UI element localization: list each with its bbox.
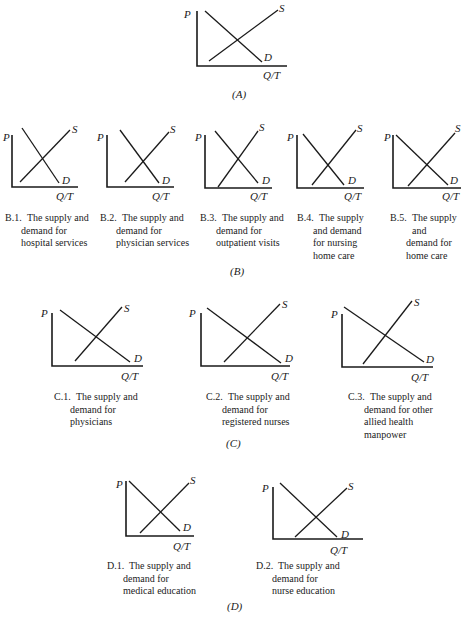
- demand-curve: [215, 131, 258, 183]
- demand-curve: [303, 134, 344, 185]
- quantity-axis-label: Q/T: [344, 190, 361, 202]
- demand-label: D: [450, 174, 458, 186]
- caption-line: nurse education: [256, 585, 340, 598]
- supply-label: S: [259, 121, 265, 133]
- caption-line: medical education: [107, 585, 196, 598]
- demand-curve: [205, 11, 262, 62]
- panel-caption: D.1.The supply anddemand formedical educ…: [107, 560, 196, 598]
- caption-line: demand for: [390, 237, 470, 250]
- price-axis-label: P: [184, 8, 191, 20]
- demand-label: D: [426, 353, 434, 365]
- quantity-axis-label: Q/T: [442, 190, 459, 202]
- caption-number: B.3.: [200, 212, 217, 225]
- caption-line: demand for: [54, 404, 138, 417]
- caption-line: outpatient visits: [200, 237, 284, 250]
- axes: [52, 313, 143, 366]
- panel-C-2: [201, 304, 290, 366]
- caption-number: C.3.: [348, 391, 365, 404]
- supply-label: S: [170, 123, 176, 135]
- caption-line: registered nurses: [206, 416, 290, 429]
- panel-C-1: [52, 307, 143, 366]
- caption-number: C.1.: [54, 391, 71, 404]
- panel-A: [197, 10, 287, 66]
- demand-label: D: [264, 51, 272, 63]
- quantity-axis-label: Q/T: [152, 190, 169, 202]
- panel-caption: C.3.The supply anddemand for otherallied…: [348, 391, 433, 441]
- caption-line: demand for: [5, 225, 89, 238]
- quantity-axis-label: Q/T: [121, 370, 138, 382]
- supply-label: S: [72, 123, 78, 135]
- supply-curve: [408, 133, 455, 186]
- demand-curve: [129, 481, 180, 531]
- price-axis-label: P: [3, 131, 10, 143]
- demand-label: D: [285, 352, 293, 364]
- caption-line: allied health: [348, 416, 433, 429]
- supply-curve: [295, 488, 347, 537]
- quantity-axis-label: Q/T: [330, 544, 347, 556]
- demand-label: D: [183, 521, 191, 533]
- panel-caption: B.2.The supply anddemand forphysician se…: [100, 212, 189, 250]
- supply-label: S: [455, 122, 461, 134]
- price-axis-label: P: [97, 131, 104, 143]
- demand-curve: [207, 308, 281, 363]
- caption-line: hospital services: [5, 237, 89, 250]
- section-label-D: (D): [227, 600, 242, 612]
- price-axis-label: P: [189, 307, 196, 319]
- quantity-axis-label: Q/T: [271, 370, 288, 382]
- panel-caption: D.2.The supply anddemand fornurse educat…: [256, 560, 340, 598]
- supply-curve: [218, 131, 258, 187]
- panel-C-3: [342, 301, 433, 367]
- panel-caption: C.2.The supply anddemand forregistered n…: [206, 391, 290, 429]
- caption-line: manpower: [348, 429, 433, 442]
- caption-line: demand for: [100, 225, 189, 238]
- quantity-axis-label: Q/T: [263, 69, 280, 81]
- caption-line: physicians: [54, 416, 138, 429]
- supply-curve: [224, 304, 280, 362]
- supply-curve: [363, 301, 412, 364]
- axes: [197, 11, 287, 66]
- supply-label: S: [190, 474, 196, 486]
- supply-label: S: [124, 302, 130, 314]
- supply-curve: [75, 307, 122, 361]
- caption-line: demand for other: [348, 404, 433, 417]
- caption-line: home care: [297, 250, 364, 263]
- section-label-B: (B): [230, 265, 244, 277]
- section-label-A: (A): [232, 88, 246, 100]
- caption-number: B.4.: [297, 212, 314, 225]
- supply-label: S: [279, 2, 285, 14]
- quantity-axis-label: Q/T: [250, 190, 267, 202]
- price-axis-label: P: [195, 131, 202, 143]
- demand-label: D: [341, 528, 349, 540]
- demand-curve: [120, 130, 159, 183]
- panel-caption: B.1.The supply anddemand forhospital ser…: [5, 212, 89, 250]
- demand-curve: [344, 307, 424, 362]
- quantity-axis-label: Q/T: [411, 371, 428, 383]
- caption-number: B.2.: [100, 212, 117, 225]
- supply-label: S: [414, 296, 420, 308]
- demand-curve: [280, 483, 337, 537]
- price-axis-label: P: [331, 308, 338, 320]
- demand-label: D: [134, 352, 142, 364]
- caption-line: demand for: [206, 404, 290, 417]
- quantity-axis-label: Q/T: [56, 190, 73, 202]
- price-axis-label: P: [116, 478, 123, 490]
- caption-line: home care: [390, 250, 470, 263]
- caption-number: B.5.: [390, 212, 407, 225]
- demand-label: D: [62, 174, 70, 186]
- demand-curve: [60, 310, 130, 362]
- panel-caption: B.4.The supplyand demandfor nursinghome …: [297, 212, 364, 262]
- panel-caption: C.1.The supply anddemand forphysicians: [54, 391, 138, 429]
- caption-line: demand for: [107, 573, 196, 586]
- panel-caption: B.5.The supply anddemand forhome care: [390, 212, 470, 262]
- caption-line: physician services: [100, 237, 189, 250]
- price-axis-label: P: [262, 482, 269, 494]
- quantity-axis-label: Q/T: [173, 540, 190, 552]
- demand-label: D: [348, 174, 356, 186]
- price-axis-label: P: [287, 131, 294, 143]
- supply-label: S: [348, 480, 354, 492]
- demand-curve: [396, 135, 448, 185]
- caption-line: demand for: [200, 225, 284, 238]
- caption-number: D.1.: [107, 560, 124, 573]
- caption-line: demand for: [256, 573, 340, 586]
- caption-number: C.2.: [206, 391, 223, 404]
